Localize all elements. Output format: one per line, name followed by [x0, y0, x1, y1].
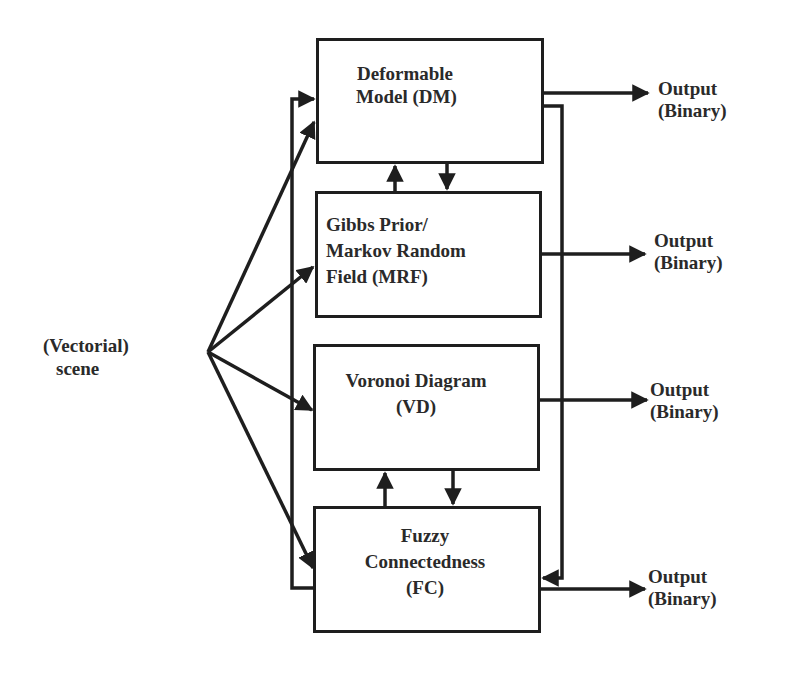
output-vd-line-1: Output: [650, 379, 719, 401]
output-fc-line-1: Output: [648, 566, 717, 588]
input-scene-label: (Vectorial) scene: [43, 334, 129, 380]
module-fc-line-2: Connectedness: [328, 549, 522, 575]
output-mrf-line-1: Output: [654, 230, 723, 252]
feedback-dm-to-fc: [543, 106, 562, 578]
output-mrf-label: Output (Binary): [654, 230, 723, 274]
output-mrf-line-2: (Binary): [654, 252, 723, 274]
module-mrf-line-3: Field (MRF): [326, 264, 466, 290]
output-vd-line-2: (Binary): [650, 401, 719, 423]
module-dm-line-2: Model (DM): [356, 85, 457, 108]
module-vd-line-2: (VD): [326, 394, 506, 420]
arrow-scene-to-fc: [208, 352, 313, 568]
module-fc-label: Fuzzy Connectedness (FC): [328, 523, 522, 601]
module-fc-line-3: (FC): [328, 575, 522, 601]
output-fc-label: Output (Binary): [648, 566, 717, 610]
output-fc-line-2: (Binary): [648, 588, 717, 610]
output-dm-label: Output (Binary): [658, 78, 727, 122]
input-scene-line-2: scene: [43, 357, 129, 380]
input-scene-line-1: (Vectorial): [43, 334, 129, 357]
module-dm-label: Deformable Model (DM): [356, 62, 457, 108]
output-dm-line-2: (Binary): [658, 100, 727, 122]
module-vd-label: Voronoi Diagram (VD): [326, 368, 506, 420]
module-mrf-line-2: Markov Random: [326, 238, 466, 264]
arrow-scene-to-mrf: [208, 267, 313, 352]
module-mrf-line-1: Gibbs Prior/: [326, 212, 466, 238]
arrow-scene-to-dm: [208, 122, 314, 352]
module-fc-line-1: Fuzzy: [328, 523, 522, 549]
module-mrf-label: Gibbs Prior/ Markov Random Field (MRF): [326, 212, 466, 290]
output-dm-line-1: Output: [658, 78, 727, 100]
module-dm-line-1: Deformable: [356, 62, 457, 85]
module-vd-line-1: Voronoi Diagram: [326, 368, 506, 394]
output-vd-label: Output (Binary): [650, 379, 719, 423]
